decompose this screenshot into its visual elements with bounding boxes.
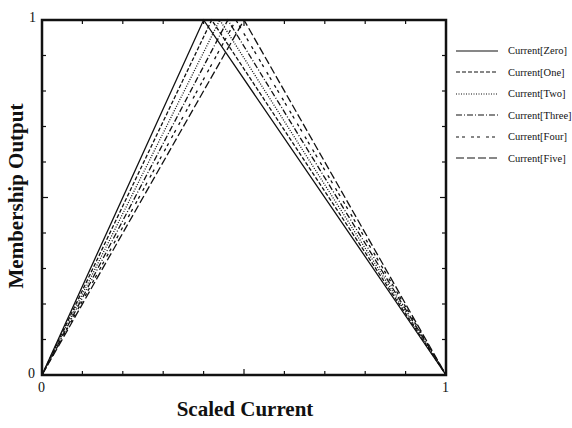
- legend-line-icon: [456, 155, 498, 161]
- legend-item: Current[Three]: [456, 105, 572, 127]
- series-line: [42, 20, 446, 375]
- plot-frame: [42, 20, 446, 375]
- legend-line-icon: [456, 112, 498, 118]
- legend-line-icon: [456, 91, 498, 97]
- legend-label: Current[Three]: [508, 110, 572, 121]
- series-line: [42, 20, 446, 375]
- legend-line-icon: [456, 134, 498, 140]
- legend-item: Current[One]: [456, 62, 572, 84]
- series-lines: [42, 20, 446, 375]
- legend-line-icon: [456, 69, 498, 75]
- legend-item: Current[Two]: [456, 83, 572, 105]
- series-line: [42, 20, 446, 375]
- x-axis-title: Scaled Current: [0, 397, 490, 422]
- series-line: [42, 20, 446, 375]
- y-tick-label-min: 0: [28, 366, 35, 382]
- legend-label: Current[One]: [508, 67, 565, 78]
- legend-label: Current[Two]: [508, 88, 566, 99]
- axis-ticks: [42, 20, 446, 375]
- legend-item: Current[Zero]: [456, 40, 572, 62]
- legend-item: Current[Four]: [456, 126, 572, 148]
- x-tick-label-max: 1: [442, 380, 449, 396]
- y-tick-label-max: 1: [29, 10, 36, 26]
- legend-line-icon: [456, 48, 498, 54]
- legend: Current[Zero] Current[One] Current[Two] …: [456, 40, 572, 169]
- series-line: [42, 20, 446, 375]
- series-line: [42, 20, 446, 375]
- legend-label: Current[Zero]: [508, 45, 567, 56]
- legend-label: Current[Five]: [508, 153, 566, 164]
- legend-label: Current[Four]: [508, 131, 567, 142]
- x-tick-label-min: 0: [38, 380, 45, 396]
- legend-item: Current[Five]: [456, 148, 572, 170]
- y-axis-title: Membership Output: [4, 104, 29, 289]
